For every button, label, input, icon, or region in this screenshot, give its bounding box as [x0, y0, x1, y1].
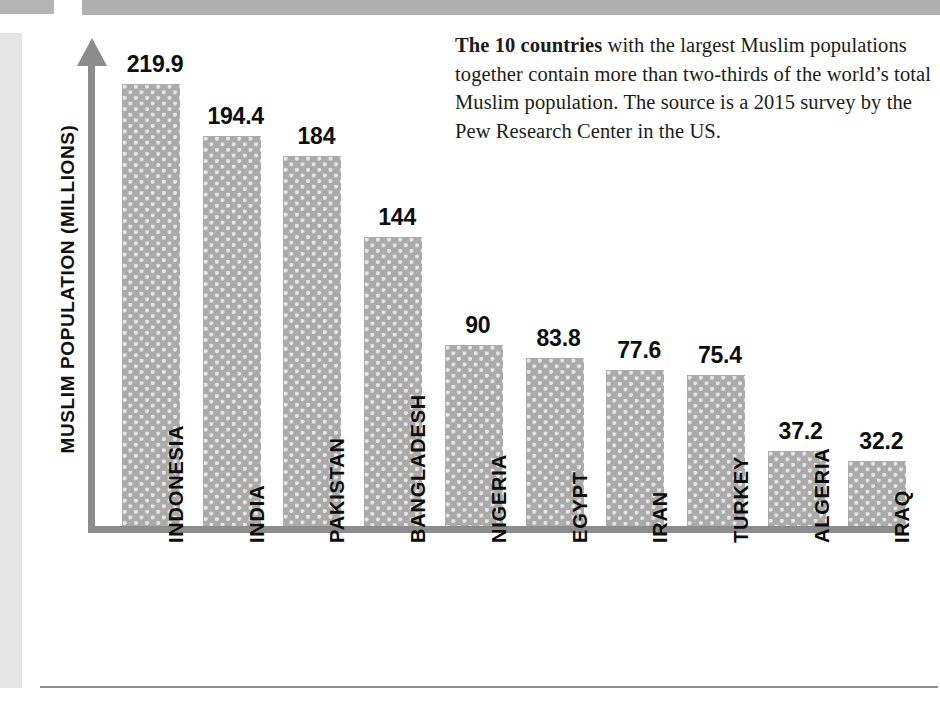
bar[interactable]	[203, 136, 261, 526]
bar-value-label: 32.2	[839, 428, 923, 455]
category-label-text: INDONESIA	[165, 425, 188, 543]
bar-value-label: 77.6	[597, 337, 681, 364]
bar-value-label: 75.4	[678, 342, 762, 369]
chart-page: The 10 countries with the largest Muslim…	[0, 0, 940, 701]
category-label-text: BANGLADESH	[407, 394, 430, 543]
category-label-text: ALGERIA	[811, 447, 834, 543]
category-label-text: NIGERIA	[488, 454, 511, 543]
bar-chart: MUSLIM POPULATION (MILLIONS) 219.9194.41…	[0, 0, 940, 701]
category-label-text: PAKISTAN	[326, 437, 349, 543]
y-axis-title: MUSLIM POPULATION (MILLIONS)	[57, 99, 79, 479]
bar-value-label: 144	[355, 204, 439, 231]
category-label-text: INDIA	[246, 485, 269, 543]
category-label-text: IRAQ	[891, 490, 914, 543]
bar-value-label: 37.2	[759, 418, 843, 445]
bar-value-label: 219.9	[113, 51, 197, 78]
category-label-text: EGYPT	[569, 471, 592, 543]
bar-value-label: 194.4	[194, 103, 278, 130]
category-label-text: IRAN	[649, 491, 672, 543]
bar-slot: 194.4	[194, 60, 278, 526]
y-axis-line	[88, 60, 95, 532]
bar-value-label: 184	[274, 123, 358, 150]
bar-slot: 32.2	[839, 60, 923, 526]
bar-slot: 83.8	[517, 60, 601, 526]
bar-value-label: 90	[436, 312, 520, 339]
bar-value-label: 83.8	[517, 325, 601, 352]
bar-slot: 77.6	[597, 60, 681, 526]
category-label-text: TURKEY	[730, 456, 753, 543]
